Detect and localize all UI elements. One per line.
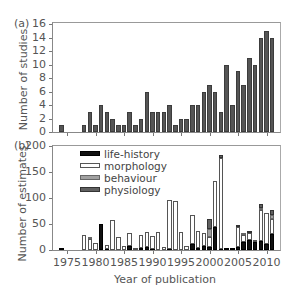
segment-morphology: [105, 245, 110, 249]
bar-studies-1984: [116, 125, 121, 132]
x-tick-mark: [210, 251, 211, 254]
bar-estimates-1991: [156, 232, 161, 250]
x-tick-mark: [267, 251, 268, 254]
bar-studies-2005: [236, 71, 241, 132]
segment-life-history: [259, 241, 264, 250]
bar-estimates-2006: [241, 234, 246, 250]
y-tick-label: 16: [16, 18, 46, 29]
segment-morphology: [122, 246, 127, 250]
y-tick-label: 10: [16, 59, 46, 70]
x-tick-mark: [210, 133, 211, 136]
bar-studies-1981: [99, 105, 104, 132]
x-tick-mark: [124, 133, 125, 136]
bar-estimates-1998: [196, 231, 201, 250]
bar-studies-1998: [196, 105, 201, 132]
y-tick-label: 8: [16, 72, 46, 83]
bar-studies-2002: [219, 112, 224, 132]
y-tick-label: 12: [16, 45, 46, 56]
bar-estimates-1999: [202, 233, 207, 250]
x-tick-mark: [181, 251, 182, 254]
bar-studies-1980: [93, 125, 98, 132]
segment-morphology: [196, 231, 201, 248]
bar-estimates-2008: [253, 240, 258, 250]
segment-morphology: [133, 248, 138, 250]
bar-estimates-1980: [93, 243, 98, 250]
segment-morphology: [162, 247, 167, 250]
segment-life-history: [247, 240, 252, 250]
bar-estimates-2005: [236, 225, 241, 250]
segment-morphology: [173, 201, 178, 250]
legend-item-morphology: morphology: [80, 160, 180, 172]
y-tick-label: 200: [16, 140, 46, 151]
x-axis-label: Year of publication: [100, 273, 230, 286]
bar-studies-1991: [156, 112, 161, 132]
segment-physiology: [270, 210, 275, 214]
segment-morphology: [202, 233, 207, 246]
bar-estimates-1989: [145, 232, 150, 250]
legend-label: life-history: [104, 148, 160, 160]
segment-life-history: [207, 247, 212, 250]
bar-estimates-2007: [247, 231, 252, 250]
y-tick-label: 0: [16, 126, 46, 137]
legend-item-life-history: life-history: [80, 148, 180, 160]
legend-label: physiology: [104, 184, 161, 196]
y-tick-label: 150: [16, 166, 46, 177]
segment-morphology: [156, 232, 161, 250]
segment-life-history: [202, 246, 207, 250]
segment-morphology: [270, 219, 275, 235]
x-tick-mark: [267, 133, 268, 136]
y-tick-label: 4: [16, 99, 46, 110]
segment-morphology: [207, 237, 212, 247]
segment-morphology: [241, 235, 246, 242]
segment-physiology: [259, 204, 264, 208]
y-tick-label: 100: [16, 192, 46, 203]
bar-studies-1995: [179, 119, 184, 133]
segment-behaviour: [241, 233, 246, 235]
legend-label: morphology: [104, 160, 167, 172]
segment-life-history: [224, 248, 229, 250]
legend-swatch-morphology: [80, 163, 100, 168]
x-tick-mark: [67, 251, 68, 254]
segment-morphology: [116, 237, 121, 250]
segment-life-history: [236, 247, 241, 250]
x-tick-mark: [96, 133, 97, 136]
bar-estimates-1974: [59, 249, 64, 250]
segment-morphology: [167, 200, 172, 249]
bar-estimates-1993: [167, 200, 172, 250]
bar-estimates-2002: [219, 155, 224, 250]
segment-morphology: [184, 246, 189, 250]
segment-life-history: [59, 248, 64, 250]
segment-physiology: [219, 155, 224, 158]
x-tick-mark: [153, 251, 154, 254]
segment-morphology: [139, 235, 144, 248]
bar-studies-1999: [202, 92, 207, 133]
bar-studies-1986: [127, 112, 132, 132]
bar-studies-1983: [110, 119, 115, 133]
y-tick-label: 0: [16, 244, 46, 255]
bar-studies-2008: [253, 65, 258, 133]
bar-studies-1989: [145, 92, 150, 133]
bar-estimates-2000: [207, 219, 212, 250]
bar-estimates-1995: [179, 232, 184, 250]
bar-estimates-1984: [116, 237, 121, 250]
segment-morphology: [82, 235, 87, 250]
legend-item-behaviour: behaviour: [80, 172, 180, 184]
x-tick-mark: [181, 133, 182, 136]
y-tick-label: 14: [16, 32, 46, 43]
segment-morphology: [219, 158, 224, 249]
x-tick-mark: [238, 133, 239, 136]
segment-physiology: [247, 231, 252, 234]
bar-studies-1993: [167, 105, 172, 132]
segment-morphology: [259, 210, 264, 240]
segment-life-history: [264, 244, 269, 250]
x-tick-mark: [153, 133, 154, 136]
segment-behaviour: [207, 229, 212, 237]
x-tick-mark: [238, 251, 239, 254]
bar-estimates-1982: [105, 245, 110, 250]
bar-studies-1997: [190, 105, 195, 132]
bar-studies-2000: [207, 85, 212, 132]
segment-life-history: [270, 234, 275, 250]
bar-studies-2011: [270, 38, 275, 133]
segment-morphology: [127, 233, 132, 246]
segment-morphology: [88, 239, 93, 250]
